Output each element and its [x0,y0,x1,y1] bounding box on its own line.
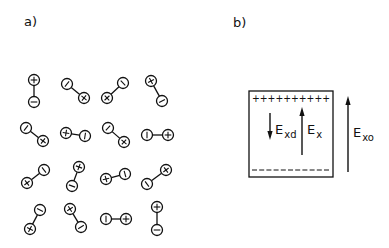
dipole [65,204,87,233]
dipole-bond [71,134,79,135]
dipole-bond [73,214,78,223]
arrow-label: Exd [275,122,296,140]
panel-b: b) ++++++++++ ExdExExo [233,15,374,177]
dipole [25,205,46,235]
dipole [152,202,163,236]
panel-b-label: b) [233,15,246,30]
dipole-field [21,75,174,236]
dipole-bond [111,87,119,94]
panel-a-label: a) [24,14,37,29]
arrow-e-xo: Exo [345,96,374,172]
arrow-label: Exo [353,125,374,143]
positive-charge-row: ++++++++++ [252,92,330,105]
field-arrows: ExdExExo [267,96,374,172]
dipole [102,78,129,104]
arrow-e-xd: Exd [267,113,296,140]
dipole [142,130,174,141]
dipole [29,75,40,108]
arrow-e-x: Ex [299,107,322,155]
dipole-bond [30,131,38,137]
dipole [101,169,131,185]
dipole-bond [71,87,80,94]
dipole-bond [74,172,77,181]
dipole-bond [154,86,160,96]
panel-a: a) [21,14,174,236]
dipole-bond [111,175,119,177]
dipole [142,165,172,190]
dipole-bond [31,173,39,179]
dipole-bond [151,173,161,180]
dipole [22,165,50,189]
dipole [21,123,49,147]
dipole [103,123,130,148]
dipole [61,128,91,142]
figure-canvas: a) b) ++++++++++ ExdExExo [0,0,389,248]
dipole [101,214,132,225]
dipole-bond [33,215,38,224]
dipole-bond [112,132,120,139]
dipole [67,162,85,192]
arrow-label: Ex [307,122,322,140]
dipole [62,79,90,104]
dipole [146,76,168,107]
